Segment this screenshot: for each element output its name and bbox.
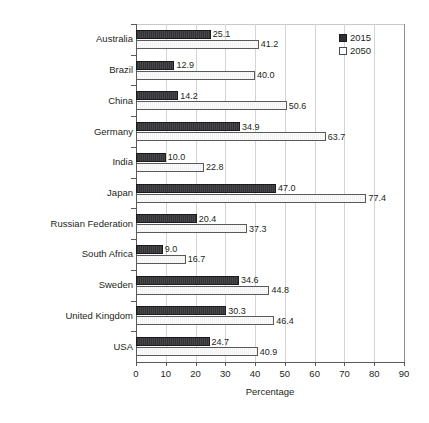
x-axis-line	[136, 362, 405, 363]
x-tick-10	[166, 362, 167, 366]
bar-usa-2015	[136, 337, 210, 346]
bar-value-brazil-2015: 12.9	[176, 60, 194, 70]
bar-value-south-africa-2050: 16.7	[188, 254, 206, 264]
y-tick-2	[131, 85, 136, 86]
y-tick-7	[131, 239, 136, 240]
category-label-india: India	[112, 156, 133, 167]
legend-item-2015: 2015	[339, 31, 371, 44]
category-label-sweden: Sweden	[99, 279, 133, 290]
bar-sweden-2015	[136, 276, 239, 285]
y-tick-8	[131, 270, 136, 271]
legend-label-2015: 2015	[350, 32, 371, 43]
y-tick-3	[131, 116, 136, 117]
x-tick-label-60: 60	[300, 368, 330, 380]
bar-germany-2015	[136, 122, 240, 131]
x-tick-label-40: 40	[240, 368, 270, 380]
bar-value-usa-2050: 40.9	[260, 347, 278, 357]
plot-border-top	[136, 24, 405, 25]
x-axis-title: Percentage	[136, 386, 404, 397]
x-tick-label-20: 20	[181, 368, 211, 380]
bar-value-japan-2050: 77.4	[368, 193, 386, 203]
y-tick-10	[131, 331, 136, 332]
bar-japan-2015	[136, 184, 276, 193]
bar-india-2015	[136, 153, 166, 162]
x-tick-label-50: 50	[270, 368, 300, 380]
x-tick-20	[196, 362, 197, 366]
x-tick-label-30: 30	[210, 368, 240, 380]
bar-value-russian-federation-2050: 37.3	[249, 224, 267, 234]
bar-value-south-africa-2015: 9.0	[165, 244, 178, 254]
y-tick-4	[131, 147, 136, 148]
x-tick-90	[404, 362, 405, 366]
bar-value-germany-2050: 63.7	[328, 132, 346, 142]
category-label-japan: Japan	[107, 187, 133, 198]
legend-label-2050: 2050	[350, 45, 371, 56]
open-square-icon	[339, 47, 347, 55]
x-tick-70	[344, 362, 345, 366]
category-label-germany: Germany	[94, 126, 133, 137]
category-label-brazil: Brazil	[109, 64, 133, 75]
x-tick-label-70: 70	[329, 368, 359, 380]
bar-germany-2050	[136, 132, 326, 141]
bar-australia-2050	[136, 40, 259, 49]
y-tick-0	[131, 24, 136, 25]
bar-value-brazil-2050: 40.0	[257, 70, 275, 80]
bar-south-africa-2050	[136, 255, 186, 264]
category-label-australia: Australia	[96, 33, 133, 44]
x-tick-40	[255, 362, 256, 366]
bar-value-sweden-2015: 34.6	[241, 275, 259, 285]
bar-usa-2050	[136, 347, 258, 356]
bar-value-india-2050: 22.8	[206, 162, 224, 172]
bar-russian-federation-2015	[136, 214, 197, 223]
category-label-usa: USA	[113, 341, 133, 352]
bar-chart: 0102030405060708090 AustraliaBrazilChina…	[0, 0, 429, 423]
bar-value-japan-2015: 47.0	[278, 183, 296, 193]
bar-brazil-2015	[136, 61, 174, 70]
bar-united-kingdom-2015	[136, 306, 226, 315]
category-label-united-kingdom: United Kingdom	[65, 310, 133, 321]
bar-china-2015	[136, 91, 178, 100]
bar-value-sweden-2050: 44.8	[271, 285, 289, 295]
bar-russian-federation-2050	[136, 224, 247, 233]
x-tick-label-80: 80	[359, 368, 389, 380]
category-label-china: China	[108, 95, 133, 106]
bar-india-2050	[136, 163, 204, 172]
filled-square-icon	[339, 34, 347, 42]
x-tick-60	[315, 362, 316, 366]
bar-value-australia-2015: 25.1	[213, 29, 231, 39]
x-tick-80	[374, 362, 375, 366]
y-tick-1	[131, 55, 136, 56]
bar-brazil-2050	[136, 71, 255, 80]
y-tick-5	[131, 178, 136, 179]
bar-value-australia-2050: 41.2	[261, 39, 279, 49]
bar-japan-2050	[136, 194, 366, 203]
x-tick-label-90: 90	[389, 368, 419, 380]
bar-value-india-2015: 10.0	[168, 152, 186, 162]
category-label-russian-federation: Russian Federation	[51, 218, 133, 229]
category-label-south-africa: South Africa	[82, 248, 133, 259]
bar-value-china-2050: 50.6	[289, 101, 307, 111]
bar-value-united-kingdom-2015: 30.3	[228, 306, 246, 316]
x-tick-50	[285, 362, 286, 366]
chart-legend: 2015 2050	[339, 31, 371, 57]
x-tick-label-10: 10	[151, 368, 181, 380]
bar-australia-2015	[136, 30, 211, 39]
bar-china-2050	[136, 101, 287, 110]
x-tick-label-0: 0	[121, 368, 151, 380]
bar-value-united-kingdom-2050: 46.4	[276, 316, 294, 326]
bar-sweden-2050	[136, 286, 269, 295]
x-tick-30	[225, 362, 226, 366]
bar-south-africa-2015	[136, 245, 163, 254]
legend-item-2050: 2050	[339, 44, 371, 57]
bar-value-china-2015: 14.2	[180, 91, 198, 101]
y-tick-9	[131, 301, 136, 302]
bar-value-russian-federation-2015: 20.4	[199, 214, 217, 224]
bar-value-germany-2015: 34.9	[242, 122, 260, 132]
plot-border-right	[404, 24, 405, 362]
x-tick-0	[136, 362, 137, 366]
bar-united-kingdom-2050	[136, 316, 274, 325]
bar-value-usa-2015: 24.7	[212, 337, 230, 347]
y-tick-6	[131, 208, 136, 209]
